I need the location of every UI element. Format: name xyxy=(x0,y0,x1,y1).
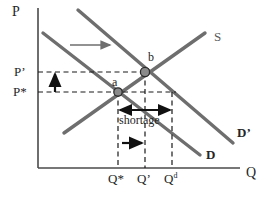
x-axis-label: Q xyxy=(246,166,256,180)
point-label-b: b xyxy=(148,51,154,63)
curve-label-demand-original: D xyxy=(206,148,215,161)
equilibrium-point-b xyxy=(140,67,149,76)
quantity-tick-q-star: Q* xyxy=(108,172,124,185)
quantity-tick-q-prime: Q’ xyxy=(137,172,151,185)
price-tick-p-prime: P’ xyxy=(14,65,26,78)
shortage-annotation-label: shortage xyxy=(119,114,160,126)
supply-demand-figure: P Q P’ P* Q* Q’ Qd S D D’ a b shortage xyxy=(0,0,275,199)
y-axis-label: P xyxy=(12,5,20,19)
point-label-a: a xyxy=(112,76,117,88)
price-tick-p-star: P* xyxy=(13,85,27,98)
quantity-tick-q-d-sup: d xyxy=(173,171,177,180)
curve-label-demand-shifted: D’ xyxy=(237,126,251,139)
curve-label-supply: S xyxy=(214,30,221,43)
diagram-canvas xyxy=(0,0,275,199)
quantity-tick-q-d: Qd xyxy=(164,172,177,185)
equilibrium-point-a xyxy=(114,88,122,96)
quantity-tick-q-d-base: Q xyxy=(164,171,173,186)
